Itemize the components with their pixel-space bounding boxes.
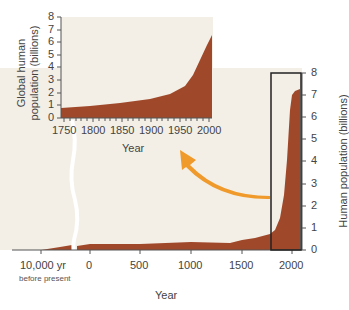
main-xtick-2000: 2000: [279, 259, 303, 271]
inset-ytick-7: 7: [48, 23, 54, 35]
main-xtick-0: 0: [86, 259, 92, 271]
inset-ylabel: Global human population (billions): [15, 13, 41, 133]
inset-ytick-1: 1: [48, 98, 54, 110]
main-xtick-subtitle: before present: [19, 274, 71, 283]
inset-ytick-2: 2: [48, 86, 54, 98]
inset-xtick-2000: 2000: [197, 124, 221, 136]
inset-xtick-1950: 1950: [168, 124, 192, 136]
main-xtick-10000-value: 10,000 yr: [20, 259, 66, 271]
main-area-prehistory: [41, 245, 72, 250]
main-ytick-8: 8: [311, 66, 317, 78]
main-ytick-0: 0: [311, 243, 317, 255]
inset-xtick-1850: 1850: [110, 124, 134, 136]
inset-xlabel: Year: [122, 142, 144, 154]
main-ytick-3: 3: [311, 177, 317, 189]
inset-ylabel-line2: population (billions): [28, 13, 41, 133]
main-ytick-1: 1: [311, 221, 317, 233]
inset-xtick-1800: 1800: [81, 124, 105, 136]
main-xlabel: Year: [155, 289, 177, 301]
inset-ytick-3: 3: [48, 73, 54, 85]
inset-ytick-8: 8: [48, 10, 54, 22]
inset-ytick-5: 5: [48, 48, 54, 60]
main-ylabel: Human population (billions): [337, 86, 349, 236]
main-ytick-4: 4: [311, 154, 317, 166]
main-ytick-7: 7: [311, 88, 317, 100]
main-xtick-1000: 1000: [178, 259, 202, 271]
main-ytick-6: 6: [311, 110, 317, 122]
inset-xtick-1900: 1900: [139, 124, 163, 136]
main-ytick-5: 5: [311, 132, 317, 144]
main-xtick-10000: 10,000 yr: [20, 259, 66, 271]
inset-ylabel-line1: Global human: [15, 13, 28, 133]
callout-arrow: [180, 150, 270, 199]
inset-ytick-6: 6: [48, 35, 54, 47]
inset-ytick-0: 0: [48, 111, 54, 123]
main-xtick-1500: 1500: [229, 259, 253, 271]
axis-break: [69, 120, 79, 260]
main-ytick-2: 2: [311, 199, 317, 211]
inset-ytick-4: 4: [48, 60, 54, 72]
main-xtick-500: 500: [130, 259, 148, 271]
inset-xtick-1750: 1750: [52, 124, 76, 136]
